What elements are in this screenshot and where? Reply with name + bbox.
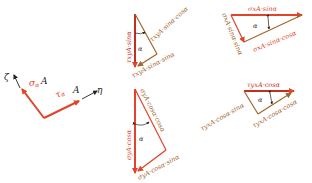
angle-label: α: [258, 96, 263, 104]
hypotenuse-label: σyA·cosα·cosα: [138, 87, 167, 133]
triangle-sigma-x: α σxA·sinα σxA·sinα·sinα σxA·sinα·cosα: [220, 5, 302, 57]
base-label: σxA·sinα·cosα: [252, 29, 298, 54]
angle-arc-icon: [135, 122, 149, 125]
angle-label: α: [139, 135, 144, 143]
tau-alpha-label: τα: [54, 87, 66, 100]
angle-label: α: [138, 45, 143, 53]
zeta-axis-icon: [14, 75, 20, 88]
sigma-alpha-arrow-icon: [22, 89, 44, 118]
zeta-label: ζ: [4, 72, 10, 82]
angle-arc-icon: [135, 32, 145, 34]
eta-label: η: [97, 85, 103, 95]
tau-alpha-arrow-icon: [44, 101, 79, 118]
base-label: τxyA·sinα·sinα: [130, 50, 176, 80]
triangle-tau-yx: α τyxA·cosα τyxA·cosα·sinα τyxA·cosα·cos…: [199, 81, 299, 133]
hypotenuse-label: τxyA·sinα·cosα: [148, 4, 190, 43]
left-line: [244, 91, 258, 114]
sigma-area-label: A: [40, 76, 48, 86]
top-label: σxA·sinα: [248, 5, 277, 13]
vertical-label: σyA·cosα: [125, 129, 133, 160]
sigma-alpha-label: σα: [29, 78, 39, 88]
left-label: τyxA·cosα·sinα: [199, 101, 246, 133]
vertical-label: τxyA·sinα: [125, 31, 133, 63]
tau-area-label: A: [72, 85, 80, 95]
top-label: τyxA·cosα: [247, 81, 281, 89]
stress-decomposition-diagram: ζ η σα A τα A α τxyA·sinα τxyA·sinα·cosα…: [0, 0, 312, 183]
angle-marker-icon: [270, 93, 272, 104]
eta-axis-icon: [82, 91, 97, 99]
angle-marker-icon: [268, 17, 269, 29]
triangle-sigma-y: α σyA·cosα σyA·cosα·cosα σyA·cosα·sinα: [125, 87, 181, 181]
angle-label: α: [253, 22, 258, 30]
triangle-tau-xy-sin: α τxyA·sinα τxyA·sinα·cosα τxyA·sinα·sin…: [125, 4, 190, 79]
element-axes-group: ζ η σα A τα A: [4, 72, 103, 118]
